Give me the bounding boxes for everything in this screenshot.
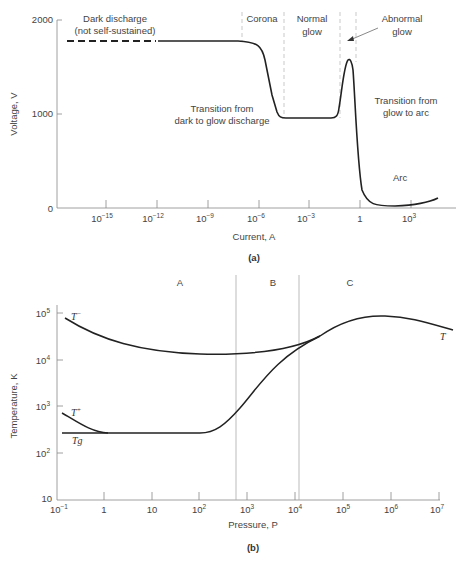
arrow-head-icon (347, 36, 354, 41)
region-a: A (177, 277, 184, 288)
y-tick: 105 (36, 307, 51, 319)
label-transition-glow-arc: Transition from (375, 95, 438, 106)
curve-t-minus (65, 318, 320, 354)
panel-b: A B C 105 104 103 102 10 10−1 1 10 102 (8, 275, 453, 553)
x-tick: 10−9 (196, 212, 214, 224)
x-tick: 10−12 (142, 212, 164, 224)
curve-t (320, 316, 453, 336)
caption-a: (a) (248, 252, 260, 263)
label-abnormal-glow-2: glow (392, 26, 412, 37)
label-tg: Tg (72, 435, 83, 446)
x-tick: 104 (288, 503, 303, 515)
label-abnormal-glow: Abnormal (382, 13, 423, 24)
figure: 2000 1000 0 10−15 10−12 10−9 10−6 10−3 1… (0, 0, 469, 563)
x-tick: 10−1 (50, 503, 68, 515)
label-t: T (440, 331, 447, 342)
arrow-line (350, 28, 378, 40)
curve-t-plus (62, 413, 108, 433)
x-tick: 102 (192, 503, 207, 515)
x-tick: 10−3 (297, 212, 315, 224)
y-axis-label-a: Voltage, V (8, 92, 19, 136)
label-transition-glow-arc-2: glow to arc (383, 107, 429, 118)
y-tick-1000: 1000 (32, 108, 53, 119)
y-tick: 104 (36, 354, 51, 366)
x-tick: 10 (147, 504, 158, 515)
panel-a: 2000 1000 0 10−15 10−12 10−9 10−6 10−3 1… (8, 12, 456, 263)
x-tick: 107 (430, 503, 445, 515)
label-not-self-sustained: (not self-sustained) (75, 25, 156, 36)
x-axis-label-a: Current, A (233, 231, 276, 242)
curve-tg (62, 336, 320, 433)
y-tick-2000: 2000 (32, 14, 53, 25)
y-tick-0: 0 (48, 203, 53, 214)
x-tick: 103 (402, 212, 417, 224)
label-t-plus: T+ (71, 406, 82, 418)
label-transition-dark-glow-2: dark to glow discharge (174, 115, 269, 126)
x-tick: 105 (336, 503, 351, 515)
label-t-minus: T− (71, 310, 82, 322)
label-corona: Corona (246, 13, 278, 24)
x-tick: 10−6 (247, 212, 265, 224)
x-tick: 103 (240, 503, 255, 515)
label-normal-glow-2: glow (302, 26, 322, 37)
label-arc: Arc (393, 172, 408, 183)
caption-b: (b) (247, 542, 259, 553)
x-tick: 1 (357, 213, 362, 224)
y-axis-label-b: Temperature, K (8, 373, 19, 439)
x-tick: 10−15 (91, 212, 113, 224)
x-tick: 106 (384, 503, 399, 515)
y-tick-10: 10 (41, 493, 52, 504)
label-normal-glow: Normal (297, 13, 328, 24)
region-b: B (270, 277, 276, 288)
label-transition-dark-glow: Transition from (191, 103, 254, 114)
y-tick: 103 (36, 400, 51, 412)
y-tick: 102 (36, 447, 51, 459)
x-axis-label-b: Pressure, P (228, 519, 278, 530)
region-c: C (347, 277, 354, 288)
x-tick: 1 (101, 504, 106, 515)
label-dark-discharge: Dark discharge (83, 13, 147, 24)
